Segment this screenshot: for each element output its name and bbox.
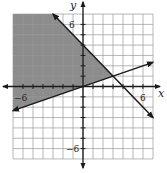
- x-axis-label: x: [158, 87, 165, 100]
- y-axis-label: y: [69, 0, 77, 12]
- x-tick-label-6: 6: [140, 93, 146, 103]
- y-tick-label-6: 6: [69, 20, 75, 30]
- y-tick-label-neg6: −6: [66, 144, 80, 154]
- x-tick-label-neg6: −6: [14, 93, 28, 103]
- inequality-graph: y x −6 6 6 −6: [0, 0, 167, 173]
